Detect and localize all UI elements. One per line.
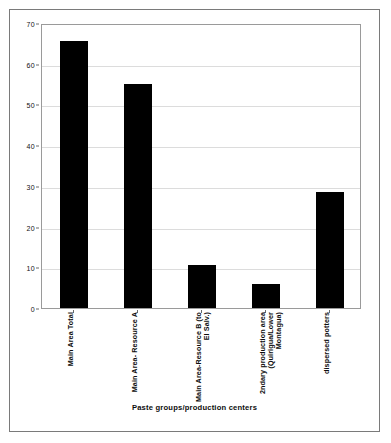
bar xyxy=(316,192,344,308)
y-axis-tick-mark xyxy=(36,268,39,269)
bar xyxy=(60,41,88,308)
y-axis-tick-label: 60 xyxy=(27,61,35,68)
plot-area xyxy=(41,24,361,309)
bar xyxy=(188,265,216,308)
x-axis-category-label: Main Area- Resource A xyxy=(131,312,145,402)
bar xyxy=(124,84,152,308)
gridline xyxy=(42,106,360,107)
x-axis-category-labels: Main Area TotalMain Area- Resource AMain… xyxy=(41,312,361,400)
y-axis-tick-label: 10 xyxy=(27,265,35,272)
y-axis-tick-mark xyxy=(36,105,39,106)
x-axis-title: Paste groups/production centers xyxy=(10,403,379,412)
y-axis-tick-label: 20 xyxy=(27,224,35,231)
y-axis-tick-label: 30 xyxy=(27,183,35,190)
bar xyxy=(252,284,280,308)
y-axis-tick-mark xyxy=(36,309,39,310)
gridline xyxy=(42,188,360,189)
y-axis-tick-mark xyxy=(36,146,39,147)
x-axis-category-label: Main Area-Resource B (to El Salv.) xyxy=(195,312,209,402)
gridline xyxy=(42,147,360,148)
y-axis-tick-label: 0 xyxy=(31,306,35,313)
y-axis-tick-mark xyxy=(36,64,39,65)
gridline xyxy=(42,66,360,67)
y-axis-tick-mark xyxy=(36,24,39,25)
figure-frame: 706050403020100 Main Area TotalMain Area… xyxy=(9,9,380,432)
y-axis-tick-mark xyxy=(36,227,39,228)
y-axis: 706050403020100 xyxy=(10,24,39,309)
y-axis-tick-label: 70 xyxy=(27,21,35,28)
x-axis-category-label: Main Area Total xyxy=(67,312,81,402)
y-axis-tick-label: 40 xyxy=(27,143,35,150)
y-axis-tick-mark xyxy=(36,186,39,187)
x-axis-category-label: dispersed potters xyxy=(323,312,337,402)
gridline xyxy=(42,229,360,230)
y-axis-tick-label: 50 xyxy=(27,102,35,109)
x-axis-category-label: 2ndary production area (Quirigua/Lower M… xyxy=(259,312,273,402)
